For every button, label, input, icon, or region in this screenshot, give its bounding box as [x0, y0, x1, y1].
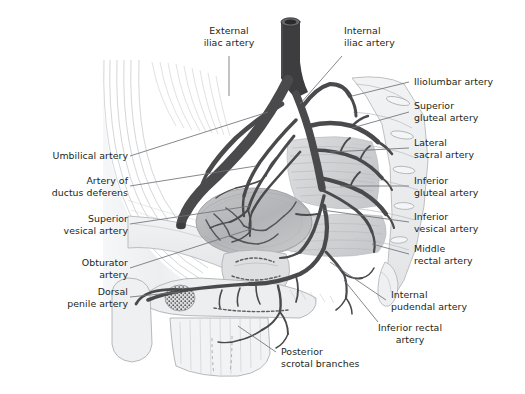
label-dorsal-penile-artery: Dorsal penile artery	[18, 286, 128, 309]
label-inferior-gluteal-artery: Inferior gluteal artery	[414, 175, 514, 198]
label-lateral-sacral-artery: Lateral sacral artery	[414, 137, 510, 160]
label-internal-pudendal-artery: Internal pudendal artery	[391, 289, 501, 312]
label-iliolumbar-artery: Iliolumbar artery	[414, 76, 522, 88]
label-umbilical-artery: Umbilical artery	[14, 150, 128, 162]
label-inferior-vesical-artery: Inferior vesical artery	[414, 211, 514, 234]
piriformis-muscle	[287, 137, 379, 209]
label-superior-vesical-artery: Superior vesical artery	[12, 213, 128, 236]
label-posterior-scrotal-branches: Posterior scrotal branches	[281, 346, 391, 369]
label-external-iliac-artery: External iliac artery	[180, 25, 278, 48]
label-artery-of-ductus-deferens: Artery of ductus deferens	[8, 175, 128, 198]
label-obturator-artery: Obturator artery	[18, 257, 128, 280]
label-internal-iliac-artery: Internal iliac artery	[344, 25, 444, 48]
label-inferior-rectal-artery: Inferior rectal artery	[362, 322, 458, 345]
label-middle-rectal-artery: Middle rectal artery	[414, 243, 510, 266]
label-superior-gluteal-artery: Superior gluteal artery	[414, 100, 516, 123]
urinary-bladder	[196, 188, 312, 256]
